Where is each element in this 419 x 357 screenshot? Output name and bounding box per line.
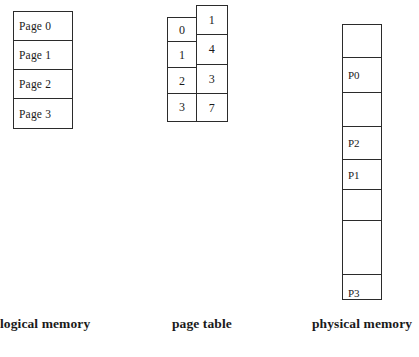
page-table-block: 0 1 2 3 1 4 3 7 [167, 5, 228, 122]
physical-memory-frame-label: P0 [348, 69, 360, 81]
physical-memory-frame-label: P3 [348, 287, 360, 299]
page-table-frame-value: 1 [209, 14, 215, 26]
paging-diagram: Page 0 Page 1 Page 2 Page 3 0 1 2 3 [0, 0, 419, 357]
page-table-frame-cell: 3 [197, 65, 228, 94]
page-table-frame-cell: 4 [197, 35, 228, 64]
logical-memory-cell: Page 0 [14, 12, 72, 41]
physical-memory-frame [343, 93, 381, 127]
logical-memory-block: Page 0 Page 1 Page 2 Page 3 [13, 11, 73, 129]
page-table-frame-cell: 7 [197, 94, 228, 123]
physical-memory-frame: P1 [343, 160, 381, 190]
logical-memory-cell-label: Page 1 [19, 49, 51, 61]
page-table-index-column: 0 1 2 3 [167, 17, 197, 122]
physical-memory-frame-label: P2 [348, 137, 360, 149]
logical-memory-cell-label: Page 3 [19, 108, 51, 120]
page-table-index-cell: 2 [168, 68, 196, 94]
logical-memory-cell-label: Page 0 [19, 20, 51, 32]
logical-memory-cell-label: Page 2 [19, 78, 51, 90]
physical-memory-caption: physical memory [312, 316, 412, 332]
physical-memory-frame [343, 25, 381, 58]
physical-memory-frame: P3 [343, 275, 381, 310]
logical-memory-cell: Page 2 [14, 70, 72, 99]
page-table-index-cell: 1 [168, 42, 196, 68]
page-table-index-value: 1 [179, 49, 185, 61]
logical-memory-cell: Page 3 [14, 99, 72, 128]
page-table-frame-value: 3 [209, 73, 215, 85]
page-table-index-cell: 0 [168, 18, 196, 42]
page-table-frame-value: 4 [209, 43, 215, 55]
page-table-index-value: 3 [179, 101, 185, 113]
physical-memory-frame: P2 [343, 127, 381, 160]
page-table-caption: page table [172, 316, 232, 332]
logical-memory-cell: Page 1 [14, 41, 72, 70]
physical-memory-frame: P0 [343, 58, 381, 93]
physical-memory-frame [343, 221, 381, 275]
page-table-frame-column: 1 4 3 7 [196, 5, 229, 122]
physical-memory-frame [343, 190, 381, 221]
page-table-index-value: 0 [179, 24, 185, 36]
page-table-frame-value: 7 [209, 102, 215, 114]
page-table-index-cell: 3 [168, 94, 196, 120]
physical-memory-block: P0 P2 P1 P3 [342, 24, 382, 300]
page-table-index-value: 2 [179, 75, 185, 87]
physical-memory-frame-label: P1 [348, 169, 360, 181]
page-table-frame-cell: 1 [197, 6, 228, 35]
logical-memory-caption: logical memory [0, 316, 90, 332]
